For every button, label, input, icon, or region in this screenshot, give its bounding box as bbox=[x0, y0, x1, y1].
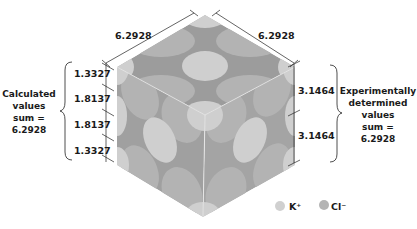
left-dim-3: 1.8137 bbox=[74, 119, 111, 130]
svg-text:sum =: sum = bbox=[362, 122, 394, 132]
legend-cl-label: Cl⁻ bbox=[331, 201, 346, 212]
left-dim-2: 1.8137 bbox=[74, 93, 111, 104]
right-brace bbox=[330, 65, 342, 162]
legend: K⁺ Cl⁻ bbox=[275, 200, 346, 212]
svg-text:values: values bbox=[362, 110, 395, 120]
svg-text:values: values bbox=[13, 101, 46, 111]
svg-text:6.2928: 6.2928 bbox=[12, 125, 47, 135]
right-caption: Experimentally determined values sum = 6… bbox=[340, 86, 416, 144]
legend-k-label: K⁺ bbox=[289, 201, 301, 212]
svg-text:Calculated: Calculated bbox=[2, 89, 56, 99]
left-dim-4: 1.3327 bbox=[74, 145, 111, 156]
top-left-edge-label: 6.2928 bbox=[115, 30, 152, 41]
left-dim-1: 1.3327 bbox=[74, 68, 111, 79]
svg-text:sum =: sum = bbox=[13, 113, 45, 123]
svg-text:6.2928: 6.2928 bbox=[361, 134, 396, 144]
k-ion-swatch bbox=[275, 201, 285, 211]
left-brace bbox=[60, 62, 72, 160]
svg-text:Experimentally: Experimentally bbox=[340, 86, 416, 96]
kcl-unit-cell-diagram: 6.2928 6.2928 1.3327 1.8137 1.8137 1.332… bbox=[0, 0, 417, 229]
left-caption: Calculated values sum = 6.2928 bbox=[2, 89, 56, 135]
right-dim-1: 3.1464 bbox=[298, 85, 335, 96]
right-dim-2: 3.1464 bbox=[298, 130, 335, 141]
top-right-edge-label: 6.2928 bbox=[258, 30, 295, 41]
cl-ion-swatch bbox=[319, 200, 329, 210]
svg-text:determined: determined bbox=[349, 98, 408, 108]
